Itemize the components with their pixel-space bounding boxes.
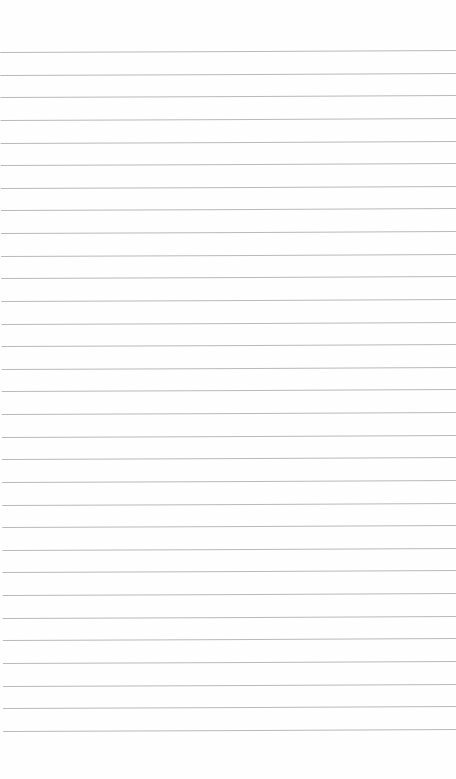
- ruled-lines: [0, 0, 456, 779]
- ruled-line: [3, 684, 456, 687]
- ruled-line: [1, 163, 456, 166]
- ruled-line: [3, 593, 456, 596]
- ruled-line: [1, 322, 456, 325]
- ruled-line: [1, 208, 456, 211]
- ruled-line: [2, 570, 456, 573]
- ruled-line: [3, 706, 456, 709]
- ruled-line: [2, 525, 456, 528]
- ruled-line: [2, 480, 456, 483]
- ruled-line: [2, 503, 456, 506]
- ruled-line: [0, 95, 456, 98]
- ruled-line: [1, 254, 456, 257]
- ruled-line: [2, 457, 456, 460]
- ruled-line: [3, 638, 456, 641]
- ruled-line: [2, 389, 456, 392]
- ruled-line: [0, 50, 456, 53]
- ruled-line: [1, 299, 456, 302]
- lined-paper-page: [0, 0, 456, 779]
- ruled-line: [2, 548, 456, 551]
- ruled-line: [2, 412, 456, 415]
- ruled-line: [1, 118, 456, 121]
- ruled-line: [2, 435, 456, 438]
- ruled-line: [1, 231, 456, 234]
- ruled-line: [3, 661, 456, 664]
- ruled-line: [2, 344, 456, 347]
- ruled-line: [0, 73, 456, 76]
- ruled-line: [1, 141, 456, 144]
- ruled-line: [3, 616, 456, 619]
- ruled-line: [2, 367, 456, 370]
- ruled-line: [1, 186, 456, 189]
- ruled-line: [1, 276, 456, 279]
- ruled-line: [3, 729, 456, 732]
